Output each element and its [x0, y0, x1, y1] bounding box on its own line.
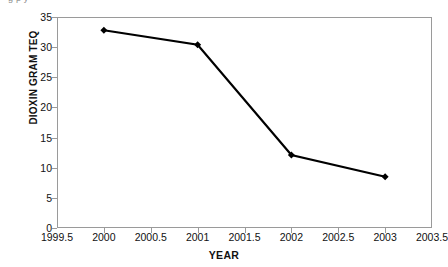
chart-figure: g p y DIOXIN GRAM TEQ 05101520253035 199…: [0, 0, 448, 267]
series-line: [104, 30, 385, 176]
data-series-layer: [0, 0, 448, 267]
data-point-marker: [382, 173, 389, 180]
data-point-marker: [100, 27, 107, 34]
